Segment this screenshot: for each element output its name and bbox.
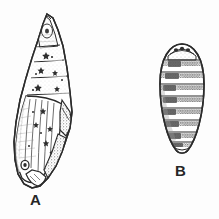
specimen-a-spiracle-center bbox=[23, 163, 26, 167]
figure-panel: A B bbox=[0, 0, 219, 219]
figure-label-a: A bbox=[30, 192, 41, 207]
figure-label-b: B bbox=[175, 163, 186, 178]
specimen-a-eye-pupil bbox=[45, 28, 49, 33]
specimen-a-group bbox=[14, 14, 72, 188]
specimen-a-segment-2 bbox=[28, 62, 66, 77]
specimen-b-group bbox=[160, 44, 204, 154]
illustration-canvas bbox=[0, 0, 219, 219]
specimen-a-segment-3 bbox=[25, 78, 70, 94]
